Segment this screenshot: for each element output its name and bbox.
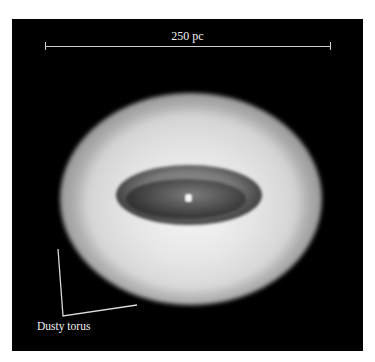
dusty-torus-label: Dusty torus [37, 320, 90, 332]
image-panel: 250 pc Dusty torus [12, 19, 363, 351]
callout-lines [12, 19, 363, 351]
